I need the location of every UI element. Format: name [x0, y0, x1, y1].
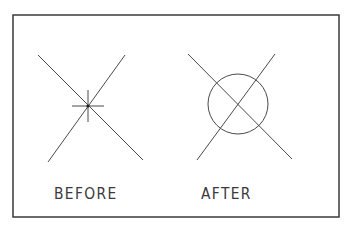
before-panel — [38, 55, 143, 162]
after-panel — [188, 54, 292, 160]
after-label: AFTER — [201, 187, 252, 202]
before-line-1 — [38, 55, 143, 160]
intersection-point — [86, 104, 89, 107]
after-line-2 — [197, 54, 275, 160]
diagram-canvas — [0, 0, 346, 228]
after-line-1 — [188, 54, 292, 159]
before-label: BEFORE — [54, 187, 118, 202]
before-line-2 — [48, 55, 125, 162]
